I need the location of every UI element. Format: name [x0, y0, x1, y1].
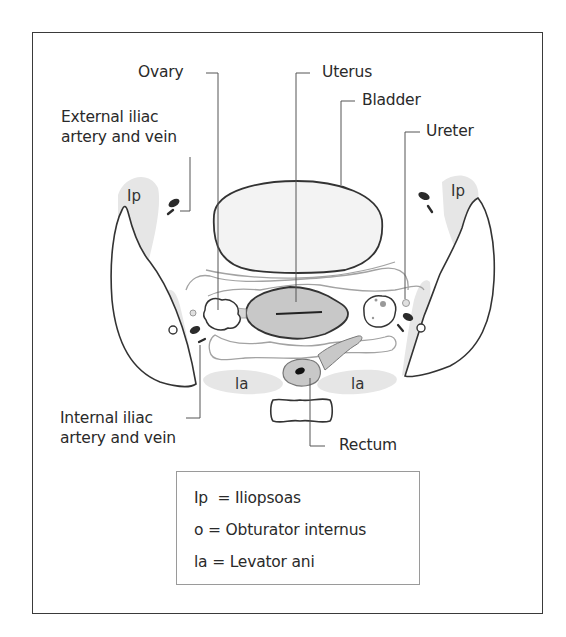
leader-bladder	[341, 101, 355, 185]
legend-item-levator-ani: la = Levator ani	[194, 546, 419, 578]
legend-sep: =	[207, 553, 229, 571]
obturator-marker-right	[417, 324, 425, 332]
label-internal-iliac: Internal iliac artery and vein	[60, 408, 176, 448]
legend-item-obturator-internus: o = Obturator internus	[194, 514, 419, 546]
label-ureter: Ureter	[426, 122, 474, 141]
iliopsoas-right-label: Ip	[451, 182, 465, 200]
internal-iliac-vein-left	[189, 325, 202, 336]
iliopsoas-left-label: Ip	[127, 187, 141, 205]
external-iliac-vein-right	[417, 190, 431, 201]
legend-term: Levator ani	[230, 553, 315, 571]
internal-iliac-artery-left	[199, 339, 205, 342]
label-internal-iliac-line1: Internal iliac	[60, 408, 176, 428]
legend-sep: =	[208, 489, 235, 507]
ureter-right	[403, 300, 410, 307]
label-rectum: Rectum	[339, 436, 397, 455]
label-external-iliac-line2: artery and vein	[61, 127, 177, 147]
external-iliac-artery-left	[168, 210, 173, 214]
legend-abbr: o	[194, 521, 203, 539]
leader-external-iliac	[180, 157, 190, 211]
leader-ovary	[206, 73, 218, 310]
legend-box: Ip = Iliopsoas o = Obturator internus la…	[176, 471, 420, 585]
legend-abbr: Ip	[194, 489, 208, 507]
ovary-right	[364, 296, 396, 327]
label-external-iliac-line1: External iliac	[61, 107, 177, 127]
legend-item-iliopsoas: Ip = Iliopsoas	[194, 482, 419, 514]
label-bladder: Bladder	[362, 91, 421, 110]
bladder	[214, 181, 383, 273]
legend-term: Obturator internus	[226, 521, 367, 539]
ureter-left	[190, 310, 196, 316]
label-uterus: Uterus	[322, 63, 372, 82]
legend-term: Iliopsoas	[235, 489, 301, 507]
legend-sep: =	[203, 521, 225, 539]
label-internal-iliac-line2: artery and vein	[60, 428, 176, 448]
levator-ani-right-label: la	[351, 375, 364, 393]
internal-iliac-artery-right	[398, 325, 403, 331]
obturator-marker-left	[169, 326, 177, 334]
coccyx	[271, 399, 333, 422]
levator-ani-left-label: la	[235, 375, 248, 393]
external-iliac-artery-right	[428, 206, 432, 212]
label-ovary: Ovary	[138, 63, 183, 82]
ovary-left	[204, 298, 240, 330]
legend-abbr: la	[194, 553, 207, 571]
external-iliac-vein-left	[167, 197, 181, 209]
leader-ureter	[405, 132, 420, 299]
label-external-iliac: External iliac artery and vein	[61, 107, 177, 147]
